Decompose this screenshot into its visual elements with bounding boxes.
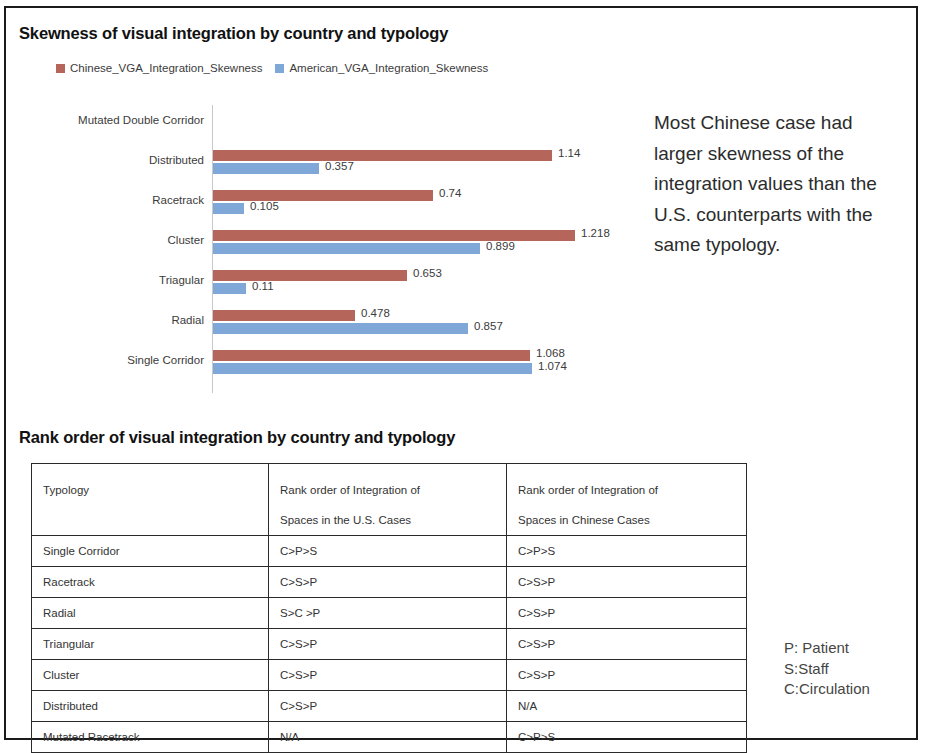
table-row: DistributedC>S>PN/A — [32, 691, 747, 722]
chart-bar — [213, 323, 468, 334]
chart-bar-value-label: 0.357 — [325, 160, 354, 172]
chart-category-label: Cluster — [168, 234, 204, 246]
table-cell-typology: Triangular — [32, 629, 269, 660]
table-cell-chinese-rank: N/A — [507, 691, 747, 722]
chart-category-label: Distributed — [149, 154, 204, 166]
chart-bar-value-label: 0.105 — [250, 200, 279, 212]
table-cell-us-rank: C>S>P — [269, 660, 507, 691]
table-row: Mutated RacetrackN/AC>P>S — [32, 722, 747, 753]
chart-bar-value-label: 1.14 — [558, 147, 580, 159]
chart-bar — [213, 270, 407, 281]
chart-bar-value-label: 0.74 — [439, 187, 461, 199]
chart-bar — [213, 190, 433, 201]
legend-label: American_VGA_Integration_Skewness — [289, 62, 488, 74]
table-column-header-line2: Spaces in the U.S. Cases — [280, 505, 506, 535]
abbreviation-key: P: PatientS:StaffC:Circulation — [784, 638, 870, 700]
abbreviation-key-line: C:Circulation — [784, 679, 870, 700]
table-row: Single CorridorC>P>SC>P>S — [32, 536, 747, 567]
chart-legend: Chinese_VGA_Integration_SkewnessAmerican… — [56, 62, 488, 74]
table-column-header: Rank order of Integration ofSpaces in th… — [269, 464, 507, 536]
chart-bar-value-label: 0.11 — [252, 280, 274, 292]
table-cell-typology: Mutated Racetrack — [32, 722, 269, 753]
chart-category-row: Mutated Double Corridor — [6, 103, 746, 143]
chart-bar — [213, 230, 575, 241]
table-cell-typology: Distributed — [32, 691, 269, 722]
slide-frame: Skewness of visual integration by countr… — [4, 6, 918, 740]
chart-bar-value-label: 0.899 — [486, 240, 515, 252]
table-column-header: Rank order of Integration ofSpaces in Ch… — [507, 464, 747, 536]
table-column-header: Typology — [32, 464, 269, 536]
legend-label: Chinese_VGA_Integration_Skewness — [70, 62, 262, 74]
abbreviation-key-line: S:Staff — [784, 659, 870, 680]
chart-bar — [213, 310, 355, 321]
table-header-row: TypologyRank order of Integration ofSpac… — [32, 464, 747, 536]
chart-category-label: Racetrack — [152, 194, 204, 206]
table-cell-chinese-rank: C>S>P — [507, 598, 747, 629]
chart-bar — [213, 283, 246, 294]
table-cell-chinese-rank: C>S>P — [507, 567, 747, 598]
chart-category-row: Single Corridor1.0681.074 — [6, 343, 746, 383]
chart-category-label: Triagular — [159, 274, 204, 286]
legend-item: American_VGA_Integration_Skewness — [275, 62, 488, 74]
chart-bar-value-label: 1.074 — [538, 360, 567, 372]
chart-bar-value-label: 1.218 — [581, 227, 610, 239]
table-row: RadialS>C >PC>S>P — [32, 598, 747, 629]
chart-callout-text: Most Chinese case had larger skewness of… — [654, 108, 906, 261]
table-cell-typology: Radial — [32, 598, 269, 629]
legend-item: Chinese_VGA_Integration_Skewness — [56, 62, 262, 74]
chart-bar-value-label: 0.857 — [474, 320, 503, 332]
table-column-header-line2: Spaces in Chinese Cases — [518, 505, 746, 535]
chart-bar — [213, 203, 244, 214]
table-cell-us-rank: C>P>S — [269, 536, 507, 567]
bar-chart-plot-area: Mutated Double CorridorDistributed1.140.… — [6, 103, 746, 403]
table-column-header-line1: Rank order of Integration of — [280, 475, 506, 505]
table-cell-typology: Cluster — [32, 660, 269, 691]
chart-category-label: Single Corridor — [127, 354, 204, 366]
chart-category-label: Mutated Double Corridor — [78, 114, 204, 126]
table-column-header-line1: Typology — [43, 475, 268, 505]
chart-category-row: Cluster1.2180.899 — [6, 223, 746, 263]
table-cell-chinese-rank: C>P>S — [507, 722, 747, 753]
table-column-header-line1: Rank order of Integration of — [518, 475, 746, 505]
chart-title: Skewness of visual integration by countr… — [19, 24, 448, 43]
table-row: TriangularC>S>PC>S>P — [32, 629, 747, 660]
legend-swatch-icon — [275, 64, 284, 73]
chart-bar — [213, 350, 530, 361]
chart-bar-value-label: 0.653 — [413, 267, 442, 279]
chart-category-row: Triagular0.6530.11 — [6, 263, 746, 303]
table-cell-us-rank: S>C >P — [269, 598, 507, 629]
chart-bar — [213, 163, 319, 174]
chart-bar — [213, 363, 532, 374]
chart-category-row: Racetrack0.740.105 — [6, 183, 746, 223]
chart-category-row: Radial0.4780.857 — [6, 303, 746, 343]
table-cell-us-rank: C>S>P — [269, 629, 507, 660]
table-cell-us-rank: N/A — [269, 722, 507, 753]
chart-bar — [213, 243, 480, 254]
chart-category-row: Distributed1.140.357 — [6, 143, 746, 183]
table-cell-us-rank: C>S>P — [269, 691, 507, 722]
table-cell-typology: Single Corridor — [32, 536, 269, 567]
chart-category-label: Radial — [171, 314, 204, 326]
table-cell-chinese-rank: C>P>S — [507, 536, 747, 567]
abbreviation-key-line: P: Patient — [784, 638, 870, 659]
table-cell-typology: Racetrack — [32, 567, 269, 598]
chart-bar — [213, 150, 552, 161]
table-row: RacetrackC>S>PC>S>P — [32, 567, 747, 598]
chart-bar-value-label: 0.478 — [361, 307, 390, 319]
chart-bar-value-label: 1.068 — [536, 347, 565, 359]
table-cell-chinese-rank: C>S>P — [507, 629, 747, 660]
table-title: Rank order of visual integration by coun… — [19, 428, 455, 447]
table-cell-us-rank: C>S>P — [269, 567, 507, 598]
rank-order-table: TypologyRank order of Integration ofSpac… — [31, 463, 747, 753]
table-row: ClusterC>S>PC>S>P — [32, 660, 747, 691]
table-cell-chinese-rank: C>S>P — [507, 660, 747, 691]
legend-swatch-icon — [56, 64, 65, 73]
